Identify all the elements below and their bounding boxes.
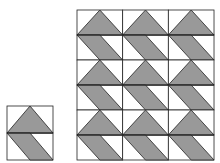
tile: [168, 110, 214, 160]
tile-grid: [77, 10, 214, 160]
tile: [77, 60, 123, 110]
tessellation-diagram: [0, 0, 220, 163]
tile: [77, 10, 123, 60]
tile: [123, 110, 169, 160]
tile: [123, 60, 169, 110]
tile: [168, 10, 214, 60]
tile: [77, 110, 123, 160]
tile: [7, 106, 53, 160]
single-tile: [7, 106, 53, 160]
tile: [168, 60, 214, 110]
tile: [123, 10, 169, 60]
